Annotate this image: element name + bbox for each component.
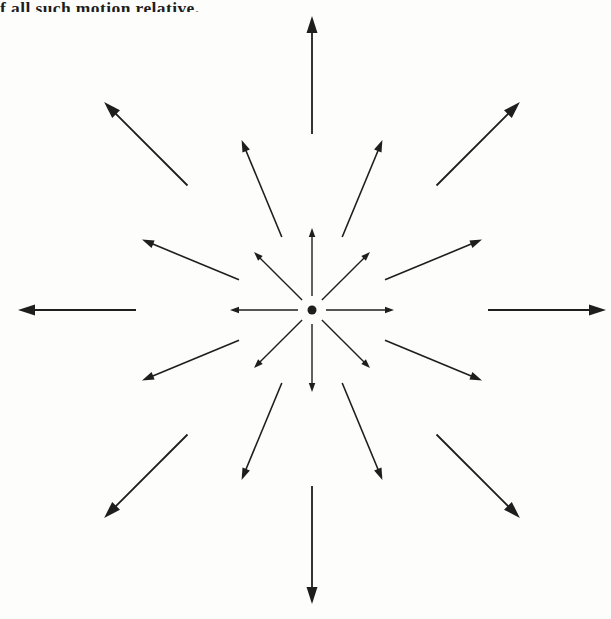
arrow-shaft	[246, 150, 282, 237]
expansion-diagram	[0, 0, 611, 619]
arrow-outer-180deg	[18, 305, 136, 316]
arrow-shaft	[322, 258, 364, 300]
arrow-shaft	[385, 244, 472, 280]
arrow-shaft	[322, 320, 364, 362]
arrow-outer-0deg	[488, 305, 606, 316]
arrow-outer-225deg	[104, 435, 187, 518]
arrow-shaft	[152, 340, 239, 376]
arrow-outer-45deg	[437, 102, 520, 185]
arrow-middle-292.5deg	[342, 383, 382, 480]
arrow-middle-157.5deg	[142, 240, 239, 280]
arrow-middle-247.5deg	[242, 383, 282, 480]
arrow-shaft	[342, 150, 378, 237]
arrow-middle-202.5deg	[142, 340, 239, 380]
arrow-inner-225deg	[254, 320, 302, 368]
arrowhead-icon	[18, 305, 35, 316]
arrowhead-icon	[230, 307, 239, 314]
arrow-middle-22.5deg	[385, 240, 482, 280]
arrow-inner-270deg	[309, 324, 316, 392]
arrow-middle-337.5deg	[385, 340, 482, 380]
arrow-shaft	[437, 113, 509, 185]
arrow-shaft	[152, 244, 239, 280]
arrow-shaft	[115, 435, 187, 507]
arrowhead-icon	[307, 16, 318, 33]
arrowhead-icon	[469, 240, 482, 248]
arrow-inner-45deg	[322, 252, 370, 300]
arrow-inner-180deg	[230, 307, 298, 314]
arrow-outer-270deg	[307, 486, 318, 604]
arrowhead-icon	[469, 372, 482, 380]
arrow-outer-315deg	[437, 435, 520, 518]
arrow-shaft	[115, 113, 187, 185]
arrow-shaft	[260, 320, 302, 362]
arrow-shaft	[246, 383, 282, 470]
arrow-middle-67.5deg	[342, 140, 382, 237]
arrowhead-icon	[385, 307, 394, 314]
arrow-shaft	[342, 383, 378, 470]
arrowhead-icon	[242, 467, 250, 480]
arrow-inner-315deg	[322, 320, 370, 368]
arrow-outer-135deg	[104, 102, 187, 185]
center-dot	[308, 306, 317, 315]
arrow-inner-90deg	[309, 228, 316, 296]
arrowhead-icon	[309, 383, 316, 392]
arrow-inner-135deg	[254, 252, 302, 300]
arrowhead-icon	[307, 587, 318, 604]
arrowhead-icon	[142, 372, 155, 380]
arrowhead-icon	[589, 305, 606, 316]
arrowhead-icon	[374, 467, 382, 480]
book-page: { "page": { "background": "#fdfdfc", "in…	[0, 0, 611, 619]
arrowhead-icon	[309, 228, 316, 237]
arrowhead-icon	[242, 140, 250, 153]
arrow-outer-90deg	[307, 16, 318, 134]
arrow-shaft	[437, 435, 509, 507]
arrowhead-icon	[142, 240, 155, 248]
arrow-shaft	[260, 258, 302, 300]
arrow-inner-0deg	[326, 307, 394, 314]
arrowhead-icon	[374, 140, 382, 153]
arrow-middle-112.5deg	[242, 140, 282, 237]
arrow-shaft	[385, 340, 472, 376]
